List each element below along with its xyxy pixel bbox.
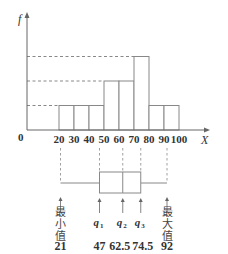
x-tick-label: 20	[54, 133, 66, 145]
q1-value-label: 47	[94, 239, 106, 253]
x-axis-arrow-icon	[204, 128, 210, 133]
up-arrow-icon	[139, 198, 143, 202]
x-tick-label: 100	[171, 133, 188, 145]
histogram-bar	[59, 106, 74, 131]
q2-label: q2	[117, 216, 128, 230]
y-axis-label: f	[18, 12, 23, 26]
origin-label: 0	[18, 131, 24, 143]
histogram-bar	[119, 81, 134, 130]
histogram-bar	[74, 106, 89, 131]
up-arrow-icon	[165, 197, 169, 201]
q1-label: q1	[94, 216, 105, 230]
up-arrow-icon	[98, 198, 102, 202]
x-tick-label: 90	[159, 133, 171, 145]
histogram-bar	[89, 106, 104, 131]
x-tick-labels: 2030405060708090100	[54, 133, 188, 145]
x-tick-label: 80	[144, 133, 156, 145]
q3-subscript: 3	[141, 222, 145, 230]
up-arrow-icon	[59, 197, 63, 201]
up-arrow-icon	[121, 198, 125, 202]
x-tick-label: 30	[69, 133, 81, 145]
x-tick-label: 70	[129, 133, 141, 145]
q2-value-label: 62.5	[109, 239, 130, 253]
q3-label: q3	[135, 216, 146, 230]
box	[100, 172, 141, 193]
histogram	[27, 57, 179, 131]
q3-value-label: 74.5	[132, 239, 153, 253]
histogram-bar	[134, 57, 149, 131]
histogram-boxplot-figure: f X 0 2030405060708090100 最小值最大值q1q2q321…	[0, 0, 228, 254]
max-label-char: 大	[162, 217, 173, 231]
histogram-bar	[149, 106, 164, 131]
histogram-bar	[104, 81, 119, 130]
boxplot: 最小值最大值q1q2q3214762.574.592	[55, 148, 174, 253]
q1-subscript: 1	[100, 222, 104, 230]
histogram-bar	[164, 106, 179, 131]
y-axis-arrow-icon	[25, 12, 30, 18]
max-value-label: 92	[161, 239, 173, 253]
q2-subscript: 2	[123, 222, 127, 230]
min-value-label: 21	[55, 239, 67, 253]
x-tick-label: 40	[84, 133, 96, 145]
x-tick-label: 60	[114, 133, 126, 145]
x-axis-label: X	[200, 133, 209, 147]
x-tick-label: 50	[99, 133, 111, 145]
